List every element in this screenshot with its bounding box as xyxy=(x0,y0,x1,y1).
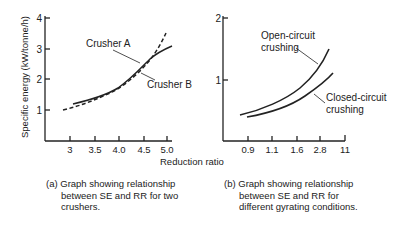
svg-text:11: 11 xyxy=(340,144,350,155)
caption-a: (a) Graph showing relationship between S… xyxy=(46,178,196,213)
panel-b-x-tick-labels: 0.9 1.1 1.6 2.8 11 xyxy=(241,144,350,155)
svg-text:1.1: 1.1 xyxy=(265,144,278,155)
panel-a-y-tick-labels: 4 3 2 1 xyxy=(36,13,42,116)
caption-b-line-3: different gyrating conditions. xyxy=(224,201,393,213)
open-circuit-curve xyxy=(240,49,329,115)
svg-text:4.5: 4.5 xyxy=(137,144,150,155)
svg-text:1: 1 xyxy=(36,105,42,116)
caption-a-line-1: (a) Graph showing relationship xyxy=(46,178,196,190)
panel-a-x-tick-labels: 3 3.5 4.0 4.5 5.0 xyxy=(67,144,173,155)
caption-a-line-2: between SE and RR for two xyxy=(46,190,196,202)
svg-text:3: 3 xyxy=(67,144,72,155)
closed-circuit-label-1: Closed-circuit xyxy=(326,92,387,103)
caption-b: (b) Graph showing relationship between S… xyxy=(224,178,393,213)
svg-text:5.0: 5.0 xyxy=(160,144,173,155)
svg-text:4.0: 4.0 xyxy=(112,144,125,155)
svg-text:2.8: 2.8 xyxy=(313,144,326,155)
svg-text:1: 1 xyxy=(215,75,221,86)
svg-text:1.6: 1.6 xyxy=(290,144,303,155)
caption-a-line-3: crushers. xyxy=(46,201,196,213)
svg-text:3.5: 3.5 xyxy=(88,144,101,155)
open-circuit-label-1: Open-circuit xyxy=(261,30,315,41)
panel-b-y-tick-labels: 2 1 xyxy=(215,13,221,86)
open-circuit-label-2: crushing xyxy=(261,42,299,53)
svg-text:0.9: 0.9 xyxy=(241,144,254,155)
caption-b-line-2: between SE and RR for xyxy=(224,190,393,202)
x-axis-label: Reduction ratio xyxy=(160,156,224,167)
svg-text:3: 3 xyxy=(36,44,42,55)
svg-text:2: 2 xyxy=(36,74,42,85)
crusher-a-leader xyxy=(113,50,140,63)
crusher-b-label: Crusher B xyxy=(147,79,192,90)
open-circuit-leader xyxy=(296,48,318,64)
svg-text:4: 4 xyxy=(36,13,42,24)
y-axis-label: Specific energy (kW/tonne/h) xyxy=(19,16,30,138)
caption-b-line-1: (b) Graph showing relationship xyxy=(224,178,393,190)
crusher-a-label: Crusher A xyxy=(86,38,131,49)
svg-text:2: 2 xyxy=(215,13,221,24)
closed-circuit-label-2: crushing xyxy=(326,104,364,115)
closed-circuit-leader xyxy=(314,94,325,103)
